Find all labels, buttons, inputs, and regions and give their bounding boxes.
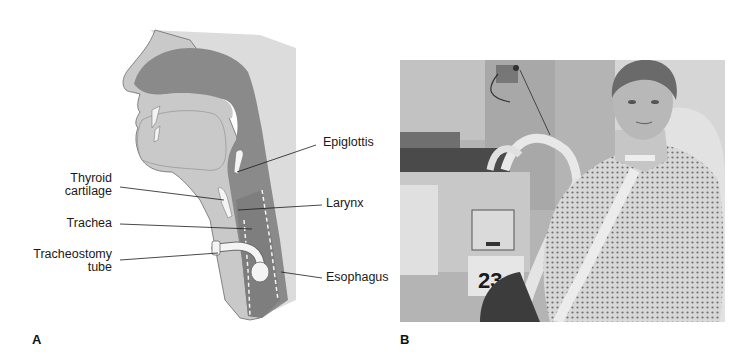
label-thyroid-cartilage-line2: cartilage [52, 185, 112, 198]
tracheostomy-collar [625, 155, 655, 161]
panel-letter-b: B [400, 332, 409, 347]
photo-scene: 23 [400, 60, 725, 322]
panel-letter-a: A [32, 332, 41, 347]
patient-photo: 23 [400, 60, 725, 322]
equipment-top [400, 132, 460, 150]
tongue [138, 111, 227, 171]
panel-b-photograph: 23 [390, 0, 753, 359]
label-epiglottis: Epiglottis [323, 136, 374, 149]
label-larynx: Larynx [326, 197, 364, 210]
panel-a-illustration: Epiglottis Thyroid cartilage Larynx Trac… [0, 0, 390, 359]
wall-left [400, 60, 485, 140]
label-tracheostomy-tube-line2: tube [20, 261, 112, 274]
label-esophagus: Esophagus [326, 271, 389, 284]
paper-chart [400, 185, 438, 275]
label-trachea: Trachea [52, 217, 112, 230]
tube-cuff [251, 262, 269, 282]
